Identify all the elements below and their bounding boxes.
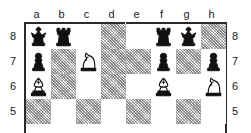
rank-label-5: 5 <box>228 99 242 124</box>
square-e5[interactable] <box>126 99 151 124</box>
square-g7[interactable] <box>176 49 201 74</box>
right-board-rank-labels: 8765 <box>228 24 242 124</box>
square-c7[interactable] <box>76 49 101 74</box>
file-label-h: h <box>199 8 224 20</box>
file-label-c: c <box>74 8 99 20</box>
square-f6[interactable] <box>151 74 176 99</box>
rank-label-7: 7 <box>228 49 242 74</box>
left-board-rank-labels: 8765 <box>6 24 20 124</box>
rank-label-7: 7 <box>6 49 20 74</box>
file-label-d: d <box>99 8 124 20</box>
square-a7[interactable] <box>26 49 51 74</box>
rank-label-6: 6 <box>6 74 20 99</box>
square-g8[interactable] <box>176 24 201 49</box>
right-board-file-labels: efgh <box>124 8 224 20</box>
square-a8[interactable] <box>26 24 51 49</box>
square-d6[interactable] <box>101 74 126 99</box>
rank-label-6: 6 <box>228 74 242 99</box>
file-label-b: b <box>49 8 74 20</box>
square-h7[interactable] <box>201 49 226 74</box>
square-e8[interactable] <box>126 24 151 49</box>
file-label-e: e <box>124 8 149 20</box>
square-b6[interactable] <box>51 74 76 99</box>
square-e6[interactable] <box>126 74 151 99</box>
square-a6[interactable] <box>26 74 51 99</box>
square-h6[interactable] <box>201 74 226 99</box>
square-g5[interactable] <box>176 99 201 124</box>
square-b5[interactable] <box>51 99 76 124</box>
square-c6[interactable] <box>76 74 101 99</box>
square-c5[interactable] <box>76 99 101 124</box>
file-label-a: a <box>24 8 49 20</box>
square-b8[interactable] <box>51 24 76 49</box>
square-h5[interactable] <box>201 99 226 124</box>
chess-diagram-pair: abcd 8765 <box>0 0 251 133</box>
square-h8[interactable] <box>201 24 226 49</box>
square-f8[interactable] <box>151 24 176 49</box>
square-b7[interactable] <box>51 49 76 74</box>
square-a5[interactable] <box>26 99 51 124</box>
rank-label-5: 5 <box>6 99 20 124</box>
file-label-f: f <box>149 8 174 20</box>
left-board-file-labels: abcd <box>24 8 124 20</box>
rank-label-8: 8 <box>6 24 20 49</box>
square-g6[interactable] <box>176 74 201 99</box>
square-f5[interactable] <box>151 99 176 124</box>
square-f7[interactable] <box>151 49 176 74</box>
left-board-grid <box>26 24 126 124</box>
square-e7[interactable] <box>126 49 151 74</box>
right-board-grid <box>126 24 226 124</box>
square-d8[interactable] <box>101 24 126 49</box>
file-label-g: g <box>174 8 199 20</box>
square-d5[interactable] <box>101 99 126 124</box>
rank-label-8: 8 <box>228 24 242 49</box>
square-d7[interactable] <box>101 49 126 74</box>
square-c8[interactable] <box>76 24 101 49</box>
